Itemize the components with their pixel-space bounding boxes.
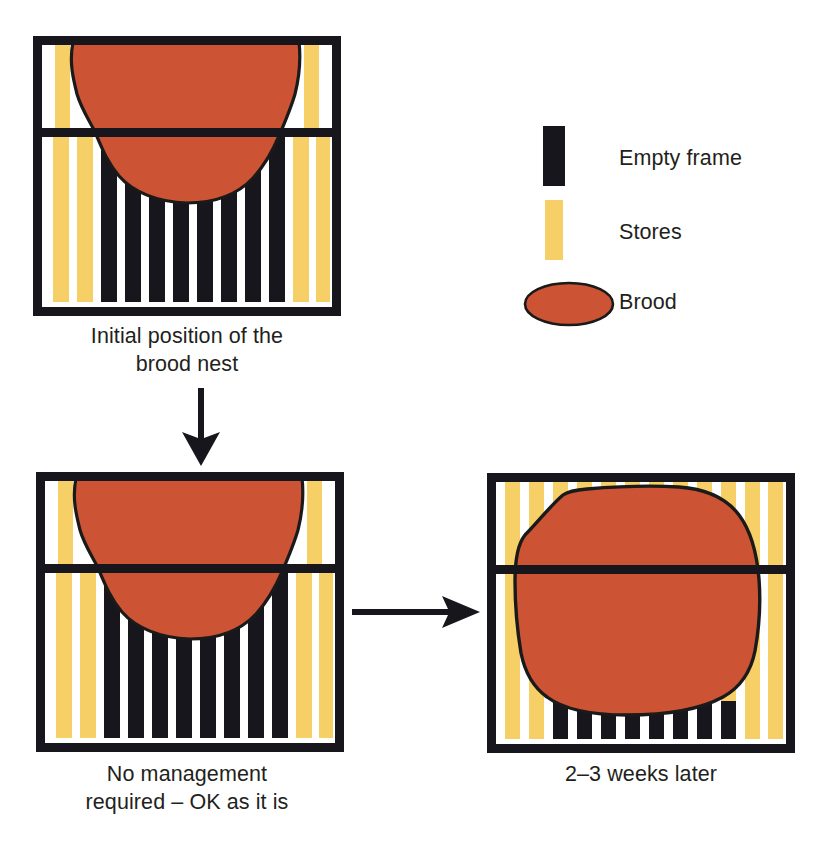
brood-ellipse-icon — [523, 280, 615, 328]
stores-swatch-icon — [545, 200, 563, 264]
frame-stores — [77, 137, 93, 302]
frame-stores — [316, 137, 330, 302]
frame-stores — [296, 573, 312, 738]
legend-label-empty-frame: Empty frame — [619, 148, 742, 170]
arrow-down — [175, 388, 227, 466]
arrow-right-icon — [352, 592, 482, 632]
frame-stores — [56, 573, 72, 738]
arrow-right — [352, 592, 482, 632]
stores-bar-icon — [545, 200, 563, 260]
hive-panel-initial — [33, 36, 341, 316]
frame-stores — [58, 481, 73, 564]
frame-stores — [55, 45, 70, 128]
hive-diagram-initial — [33, 36, 341, 316]
arrow-right-shape — [352, 596, 480, 628]
frame-stores — [319, 573, 333, 738]
empty-frame-swatch-icon — [543, 126, 565, 190]
frame-empty — [272, 573, 288, 738]
hive-panel-no-management — [36, 472, 344, 752]
ellipse-shape — [525, 283, 613, 325]
hive-panel-later — [487, 473, 795, 753]
caption-panel-initial: Initial position of the brood nest — [14, 322, 360, 379]
frame-stores — [80, 573, 96, 738]
legend-item-empty-frame: Empty frame — [543, 126, 813, 200]
brood-swatch-icon — [523, 280, 615, 332]
caption-panel-no-management: No management required – OK as it is — [14, 760, 360, 817]
frame-stores — [293, 137, 309, 302]
diagram-canvas: Initial position of the brood nest — [0, 0, 834, 846]
frame-stores — [304, 45, 319, 128]
brood-nest — [515, 486, 760, 715]
hive-diagram-later — [487, 473, 795, 753]
frame-stores — [53, 137, 69, 302]
frame-stores — [307, 481, 322, 564]
arrow-down-icon — [175, 388, 227, 466]
legend-label-stores: Stores — [619, 222, 682, 244]
legend: Empty frame Stores Brood — [543, 126, 813, 348]
hive-diagram-no-management — [36, 472, 344, 752]
empty-frame-bar-icon — [543, 126, 565, 186]
bar-shape — [545, 200, 563, 260]
arrow-down-shape — [182, 388, 220, 466]
frame-empty — [721, 701, 736, 739]
legend-label-brood: Brood — [619, 292, 677, 314]
frame-stores — [768, 482, 783, 565]
frame-stores — [768, 574, 783, 739]
frame-empty — [269, 137, 285, 302]
caption-panel-later: 2–3 weeks later — [468, 760, 814, 788]
bar-shape — [543, 126, 565, 186]
legend-item-stores: Stores — [543, 200, 813, 274]
legend-item-brood: Brood — [543, 274, 813, 348]
